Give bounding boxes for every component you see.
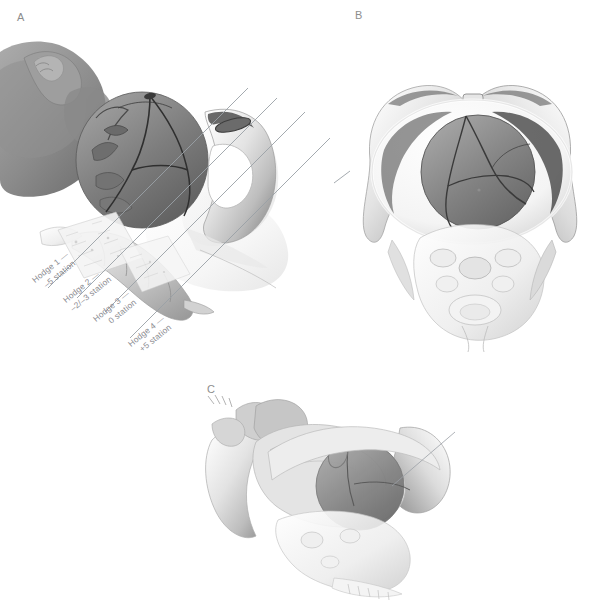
sacral-foramen-left-1 <box>430 249 456 267</box>
sacral-foramen-right-1 <box>495 249 521 267</box>
panel-letter-b: B <box>355 9 363 21</box>
sacral-foramen-right-2 <box>492 276 514 292</box>
fontanelle-b <box>477 188 480 191</box>
sacral-foramen-c3 <box>321 556 339 568</box>
sacral-foramen-c2 <box>340 529 360 543</box>
coccyx-inner-b <box>460 304 490 320</box>
sacral-body <box>459 257 491 279</box>
figure-canvas <box>0 0 605 613</box>
fetal-head-inlet <box>421 115 535 229</box>
panel-letter-c: C <box>207 383 215 395</box>
sacral-foramen-left-2 <box>436 276 458 292</box>
panel-letter-a: A <box>17 11 25 23</box>
sacral-foramen-c1 <box>301 532 323 548</box>
